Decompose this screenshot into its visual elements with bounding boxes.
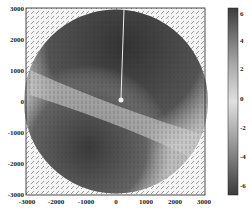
svg-text:-1000: -1000 xyxy=(8,129,25,137)
svg-text:1000: 1000 xyxy=(139,198,154,206)
svg-text:4: 4 xyxy=(240,37,244,45)
svg-text:-2000: -2000 xyxy=(48,198,65,206)
x-axis: -3000 -2000 -1000 0 1000 2000 3000 xyxy=(19,198,212,206)
svg-text:3000: 3000 xyxy=(10,5,25,13)
svg-text:-2000: -2000 xyxy=(8,160,25,168)
svg-text:0: 0 xyxy=(114,198,118,206)
plot-area xyxy=(24,8,208,195)
svg-text:-2: -2 xyxy=(240,124,246,132)
svg-text:6: 6 xyxy=(240,10,244,18)
svg-text:-4: -4 xyxy=(240,153,246,161)
svg-text:-1000: -1000 xyxy=(78,198,95,206)
svg-text:2000: 2000 xyxy=(10,36,25,44)
svg-text:0: 0 xyxy=(21,98,25,106)
svg-text:1000: 1000 xyxy=(10,67,25,75)
svg-text:3000: 3000 xyxy=(197,198,212,206)
svg-text:2000: 2000 xyxy=(168,198,183,206)
svg-text:-6: -6 xyxy=(240,182,246,190)
svg-text:0: 0 xyxy=(240,95,244,103)
chart-figure: 3000 2000 1000 0 -1000 -2000 -3000 -3000… xyxy=(0,0,252,213)
y-axis: 3000 2000 1000 0 -1000 -2000 -3000 xyxy=(8,5,25,199)
svg-text:-3000: -3000 xyxy=(19,198,36,206)
colorbar: 6 4 2 0 -2 -4 -6 xyxy=(228,8,246,195)
svg-text:2: 2 xyxy=(240,65,244,73)
